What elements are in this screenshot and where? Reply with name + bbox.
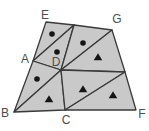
diagram-svg: EGADBCF: [0, 0, 149, 131]
dot-marker: [80, 40, 86, 46]
geometry-diagram: EGADBCF: [0, 0, 149, 131]
vertex-label-B: B: [1, 106, 9, 120]
dot-marker: [49, 31, 55, 37]
dot-marker: [34, 76, 40, 82]
vertex-label-A: A: [21, 52, 29, 66]
vertex-label-G: G: [112, 12, 121, 26]
vertex-label-F: F: [138, 107, 145, 121]
vertex-label-C: C: [62, 113, 71, 127]
vertex-label-D: D: [52, 55, 61, 69]
vertex-label-E: E: [41, 8, 49, 22]
dot-marker: [54, 49, 60, 55]
